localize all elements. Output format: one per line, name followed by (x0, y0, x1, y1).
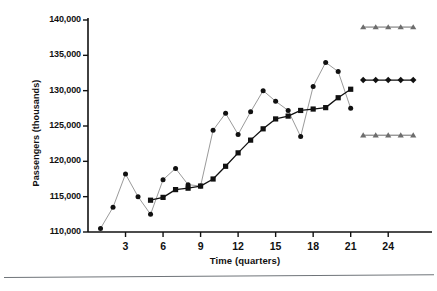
series-1-point-8 (248, 138, 253, 143)
series-0-point-6 (173, 166, 178, 171)
series-1-point-5 (210, 176, 215, 181)
series-0-point-13 (261, 88, 266, 93)
forecast-chart-figure: Passengers (thousands) Time (quarters) 1… (0, 0, 437, 291)
series-1-point-4 (198, 183, 203, 188)
series-0-point-2 (123, 172, 128, 177)
series-1-point-0 (148, 198, 153, 203)
series-1-point-16 (348, 87, 353, 92)
series-1-point-11 (286, 114, 291, 119)
series-1-point-15 (336, 95, 341, 100)
chart-axes (83, 18, 432, 237)
series-0-point-5 (161, 177, 166, 182)
series-0-actual-passengers (98, 60, 353, 231)
series-0-point-18 (323, 60, 328, 65)
series-1-point-10 (273, 116, 278, 121)
series-0-point-0 (98, 226, 103, 231)
chart-series (98, 24, 416, 231)
series-0-point-3 (136, 194, 141, 199)
series-0-point-12 (248, 109, 253, 114)
series-4-lower-forecast-limit (360, 132, 416, 137)
series-1-point-9 (261, 126, 266, 131)
x-tick-label-1: 6 (151, 240, 175, 252)
series-0-point-10 (223, 111, 228, 116)
series-3-point-1 (373, 77, 379, 83)
series-3-point-forecast (360, 77, 416, 83)
x-tick-label-4: 15 (264, 240, 288, 252)
series-0-point-9 (211, 128, 216, 133)
y-tick-label-0: 110,000 (29, 226, 81, 236)
series-0-point-15 (286, 108, 291, 113)
series-3-point-3 (398, 77, 404, 83)
y-tick-label-2: 120,000 (29, 155, 81, 165)
y-axis-title: Passengers (thousands) (31, 53, 41, 213)
series-0-point-1 (111, 205, 116, 210)
series-1-point-6 (223, 164, 228, 169)
series-3-point-0 (360, 77, 366, 83)
series-1-point-12 (298, 108, 303, 113)
y-tick-label-4: 130,000 (29, 85, 81, 95)
series-1-point-1 (160, 195, 165, 200)
series-1-fitted-smoothed (148, 87, 353, 203)
series-1-point-7 (236, 150, 241, 155)
x-tick-label-5: 18 (301, 240, 325, 252)
series-0-point-14 (273, 99, 278, 104)
x-tick-label-0: 3 (114, 240, 138, 252)
y-tick-label-5: 135,000 (29, 49, 81, 59)
series-1-point-14 (323, 105, 328, 110)
x-tick-label-6: 21 (339, 240, 363, 252)
series-1-point-2 (173, 187, 178, 192)
series-1-point-13 (311, 106, 316, 111)
series-0-point-4 (148, 212, 153, 217)
series-0-point-11 (236, 132, 241, 137)
series-0-point-17 (311, 84, 316, 89)
series-0-point-20 (348, 106, 353, 111)
x-tick-label-3: 12 (226, 240, 250, 252)
y-tick-label-6: 140,000 (29, 14, 81, 24)
chart-canvas (0, 0, 437, 291)
y-tick-label-3: 125,000 (29, 120, 81, 130)
x-tick-label-2: 9 (189, 240, 213, 252)
series-3-point-2 (385, 77, 391, 83)
series-1-point-3 (185, 186, 190, 191)
series-0-point-19 (336, 69, 341, 74)
series-3-point-4 (410, 77, 416, 83)
x-tick-label-7: 24 (376, 240, 400, 252)
y-tick-label-1: 115,000 (29, 191, 81, 201)
series-2-upper-forecast-limit (360, 24, 416, 29)
x-axis-title: Time (quarters) (150, 255, 340, 266)
series-0-point-16 (298, 134, 303, 139)
series-1-line (151, 89, 351, 200)
